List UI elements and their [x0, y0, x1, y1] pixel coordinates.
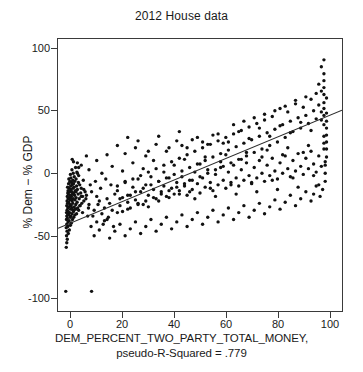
x-tick-label-80: 80	[272, 318, 284, 330]
x-axis-label-line1: DEM_PERCENT_TWO_PARTY_TOTAL_MONEY,	[0, 331, 363, 346]
scatter-points-layer	[58, 39, 342, 311]
x-tick-label-0: 0	[67, 318, 73, 330]
y-tick-label-neg50: -50	[34, 230, 50, 242]
y-tick-label-50: 50	[38, 104, 50, 116]
y-axis-ticks: 100 50 0 -50 -100	[0, 0, 50, 372]
x-tick-label-20: 20	[116, 318, 128, 330]
x-axis-label-line2: pseudo-R-Squared = .779	[0, 346, 363, 361]
scatter-points	[64, 58, 328, 293]
chart-title: 2012 House data	[0, 9, 363, 23]
x-axis-label: DEM_PERCENT_TWO_PARTY_TOTAL_MONEY, pseud…	[0, 331, 363, 361]
y-tick-label-0: 0	[44, 167, 50, 179]
x-tick-label-40: 40	[168, 318, 180, 330]
plot-area	[57, 38, 343, 312]
y-tick-label-100: 100	[32, 42, 50, 54]
scatter-plot-figure: 2012 House data % Dem − % GDP 100 50 0 -…	[0, 0, 363, 372]
x-tick-label-60: 60	[220, 318, 232, 330]
y-tick-label-neg100: -100	[28, 292, 50, 304]
regression-line	[58, 110, 342, 228]
x-tick-label-100: 100	[321, 318, 339, 330]
